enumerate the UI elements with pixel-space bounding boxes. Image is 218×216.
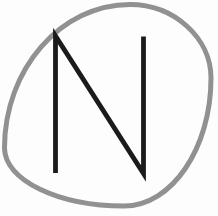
logo-canvas xyxy=(0,0,218,216)
logo-monogram: N xyxy=(0,0,218,216)
